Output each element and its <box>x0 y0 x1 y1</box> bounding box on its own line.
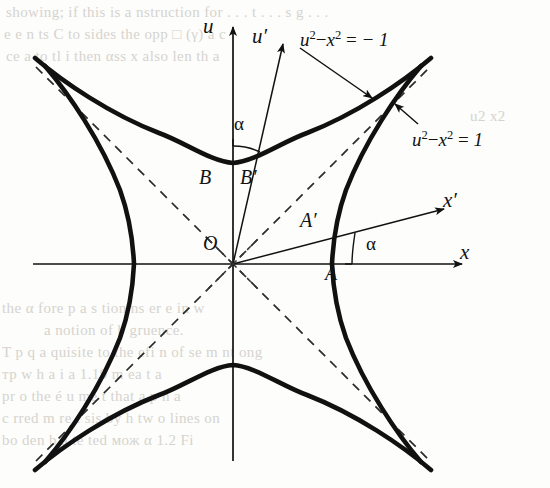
equation-upper-value: − 1 <box>361 29 388 50</box>
alpha-right-label: α <box>366 233 376 255</box>
u-axis-label: u <box>203 14 214 39</box>
x-axis-label: x <box>460 240 469 265</box>
origin-label: O <box>203 232 217 255</box>
x-prime-axis-label: x′ <box>443 188 457 213</box>
equation-upper-rhs-exponent: 2 <box>335 28 341 42</box>
equation-upper-equals: = <box>346 29 357 50</box>
equation-upper-rhs-base: x <box>326 29 334 50</box>
equation-upper-lhs-base: u <box>300 29 310 50</box>
label-leader-lines <box>300 48 418 124</box>
equation-right-value: 1 <box>473 129 483 150</box>
equation-right-equals: = <box>458 129 469 150</box>
figure-page: showing; if this is a nstruction for . .… <box>0 0 550 488</box>
angle-marker-alpha-right <box>345 233 355 264</box>
equation-upper-label: u2−x2 = − 1 <box>300 28 388 51</box>
alpha-top-label: α <box>234 113 244 135</box>
leader-right-equation <box>395 104 418 124</box>
point-a-prime-label: A′ <box>300 209 317 232</box>
leader-upper-equation <box>300 48 372 98</box>
equation-right-minus: − <box>428 129 439 150</box>
equation-upper-minus: − <box>316 29 327 50</box>
u-prime-axis-label: u′ <box>252 24 267 49</box>
angle-marker-alpha-top <box>233 139 260 152</box>
point-b-prime-label: B′ <box>240 166 257 189</box>
point-a-label: A <box>325 262 337 285</box>
equation-right-rhs-exponent: 2 <box>447 128 453 142</box>
equation-right-lhs-base: u <box>412 129 422 150</box>
equation-right-label: u2−x2 = 1 <box>412 128 483 151</box>
equation-right-rhs-base: x <box>438 129 446 150</box>
point-b-label: B <box>199 166 211 189</box>
